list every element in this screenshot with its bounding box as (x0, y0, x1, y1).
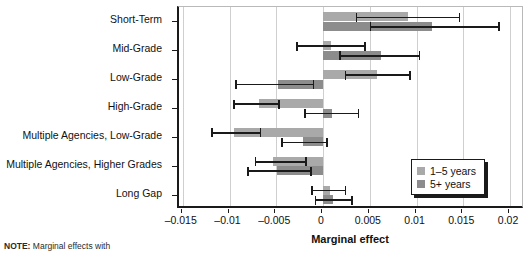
x-axis-tick-label: –0.015 (165, 214, 197, 226)
error-bar-cap (313, 80, 315, 89)
error-bar-cap (233, 100, 235, 109)
y-axis-tick (172, 108, 179, 109)
y-axis-labels: Short-TermMid-GradeLow-GradeHigh-GradeMu… (0, 6, 170, 208)
error-bar-cap (498, 22, 500, 31)
gridline (323, 7, 324, 206)
x-axis-tick-label: 0 (318, 214, 324, 226)
y-axis-tick (172, 21, 179, 22)
error-bar (282, 142, 327, 144)
error-bar-cap (305, 157, 307, 166)
x-axis-tick (228, 209, 229, 213)
y-axis-label: Multiple Agencies, Higher Grades (6, 159, 162, 170)
error-bar (357, 17, 460, 19)
error-bar-cap (326, 138, 328, 147)
x-axis-tick (508, 209, 509, 213)
error-bar-cap (247, 167, 249, 176)
x-axis-tick (181, 209, 182, 213)
error-bar-cap (339, 51, 341, 60)
x-axis-tick (274, 209, 275, 213)
y-axis-tick (172, 195, 179, 196)
error-bar-cap (419, 51, 421, 60)
error-bar (256, 161, 307, 163)
error-bar-cap (211, 128, 213, 137)
error-bar-cap (304, 109, 306, 118)
y-axis-label: Short-Term (110, 14, 162, 25)
error-bar (340, 55, 419, 57)
y-axis-label: Multiple Agencies, Low-Grade (23, 130, 163, 141)
x-axis-tick-label: –0.005 (258, 214, 290, 226)
gridline (230, 7, 231, 206)
legend: 1–5 years 5+ years (411, 159, 485, 195)
legend-item-5-plus-years: 5+ years (417, 177, 476, 190)
footnote-prefix: NOTE: (4, 241, 30, 251)
error-bar (234, 103, 279, 105)
legend-item-1-5-years: 1–5 years (417, 164, 476, 177)
error-bar (305, 113, 358, 115)
error-bar (236, 84, 314, 86)
y-axis-label: Mid-Grade (112, 43, 162, 54)
x-axis-tick-label: 0.005 (355, 214, 381, 226)
y-axis-tick (172, 50, 179, 51)
error-bar (316, 199, 352, 201)
gridline (183, 7, 184, 206)
error-bar-cap (459, 13, 461, 22)
error-bar-cap (356, 13, 358, 22)
y-axis-tick (172, 137, 179, 138)
gridline (510, 7, 511, 206)
error-bar-cap (260, 128, 262, 137)
legend-swatch-icon (417, 180, 425, 188)
y-axis-label: Long Gap (116, 188, 162, 199)
error-bar-cap (351, 196, 353, 205)
legend-label: 1–5 years (430, 165, 476, 177)
error-bar-cap (345, 71, 347, 80)
error-bar (297, 45, 365, 47)
x-axis-tick-label: 0.015 (448, 214, 474, 226)
error-bar-cap (345, 186, 347, 195)
error-bar-cap (358, 109, 360, 118)
gridline (370, 7, 371, 206)
error-bar-cap (315, 196, 317, 205)
y-axis-label: High-Grade (108, 101, 162, 112)
error-bar (345, 74, 410, 76)
legend-swatch-icon (417, 167, 425, 175)
x-axis-tick-label: –0.01 (214, 214, 240, 226)
error-bar-cap (364, 42, 366, 51)
footnote-text: Marginal effects with (33, 241, 110, 251)
x-axis-tick-label: 0.02 (498, 214, 518, 226)
error-bar-cap (255, 157, 257, 166)
error-bar-cap (296, 42, 298, 51)
x-axis-tick (461, 209, 462, 213)
x-axis-tick-label: 0.01 (404, 214, 424, 226)
x-axis-tick (368, 209, 369, 213)
error-bar-cap (281, 138, 283, 147)
error-bar (248, 170, 311, 172)
error-bar (212, 132, 261, 134)
error-bar-cap (235, 80, 237, 89)
error-bar (312, 190, 346, 192)
error-bar (371, 26, 499, 28)
y-axis-tick (172, 166, 179, 167)
chart-figure: Short-TermMid-GradeLow-GradeHigh-GradeMu… (0, 0, 532, 254)
error-bar-cap (311, 186, 313, 195)
y-axis-tick (172, 79, 179, 80)
footnote: NOTE: Marginal effects with (4, 241, 532, 253)
x-axis-tick (415, 209, 416, 213)
error-bar-cap (370, 22, 372, 31)
error-bar-cap (278, 100, 280, 109)
x-axis-tick (321, 209, 322, 213)
error-bar-cap (310, 167, 312, 176)
y-axis-label: Low-Grade (110, 72, 162, 83)
legend-label: 5+ years (430, 178, 471, 190)
error-bar-cap (409, 71, 411, 80)
